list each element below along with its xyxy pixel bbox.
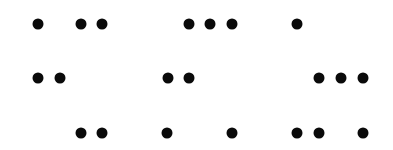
dot: [314, 73, 325, 84]
dot: [162, 128, 173, 139]
dot: [184, 19, 195, 30]
dot: [97, 19, 108, 30]
dot: [55, 73, 66, 84]
dot: [205, 19, 216, 30]
dot: [227, 19, 238, 30]
dot: [97, 128, 108, 139]
dot: [292, 19, 303, 30]
dot: [292, 128, 303, 139]
dot: [163, 73, 174, 84]
dot: [184, 73, 195, 84]
dot: [76, 128, 87, 139]
dot: [336, 73, 347, 84]
dot: [314, 128, 325, 139]
dot: [358, 128, 369, 139]
dot: [227, 128, 238, 139]
dot: [76, 19, 87, 30]
dot-pattern-canvas: [0, 0, 393, 150]
dot: [358, 73, 369, 84]
dot: [33, 19, 44, 30]
dot: [33, 73, 44, 84]
